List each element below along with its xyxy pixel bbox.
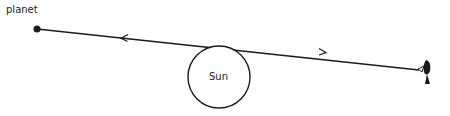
sun-label: Sun <box>209 71 228 82</box>
observer-icon <box>418 60 430 84</box>
arrow-right-icon <box>319 49 326 56</box>
diagram-canvas <box>0 0 450 116</box>
planet-dot <box>34 26 41 33</box>
